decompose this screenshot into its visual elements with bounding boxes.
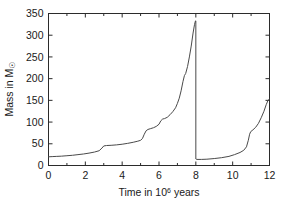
x-tick-label: 4 xyxy=(119,169,125,181)
mass-vs-time-line-chart: 050100150200250300350 024681012 Time in … xyxy=(0,0,290,207)
x-tick-label: 8 xyxy=(193,169,199,181)
y-tick-label: 50 xyxy=(32,137,44,149)
y-tick-label: 300 xyxy=(26,29,44,41)
chart-background xyxy=(0,0,290,207)
x-tick-label: 0 xyxy=(46,169,52,181)
y-tick-label: 100 xyxy=(26,116,44,128)
x-tick-label: 12 xyxy=(264,169,276,181)
y-tick-label: 250 xyxy=(26,51,44,63)
x-tick-label: 10 xyxy=(227,169,239,181)
y-tick-label: 350 xyxy=(26,7,44,19)
y-tick-label: 0 xyxy=(38,159,44,171)
x-axis-title: Time in 106 years xyxy=(118,186,199,198)
y-axis-title: Mass in M☉ xyxy=(3,61,17,116)
figure-container: 050100150200250300350 024681012 Time in … xyxy=(0,0,290,207)
y-tick-label: 200 xyxy=(26,72,44,84)
y-tick-label: 150 xyxy=(26,94,44,106)
x-tick-label: 6 xyxy=(156,169,162,181)
x-tick-label: 2 xyxy=(82,169,88,181)
